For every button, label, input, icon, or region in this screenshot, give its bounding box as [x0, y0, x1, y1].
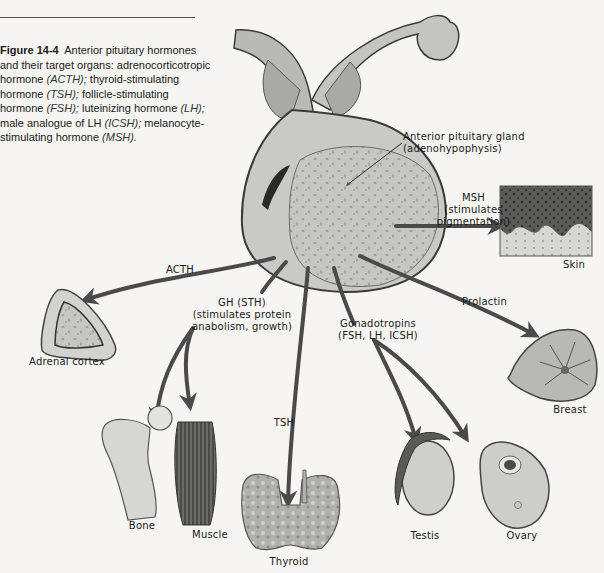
breast-label: Breast [540, 404, 600, 416]
breast-illustration [508, 330, 597, 402]
acth-label: ACTH [166, 264, 194, 276]
gh-label-line3: anabolism, growth) [182, 321, 302, 333]
adrenal-cortex-illustration [42, 290, 116, 361]
gonadotropins-label: Gonadotropins (FSH, LH, ICSH) [322, 318, 434, 342]
gonadotropins-label-line2: (FSH, LH, ICSH) [322, 330, 434, 342]
prolactin-label: Prolactin [462, 296, 507, 308]
muscle-illustration [175, 422, 216, 525]
testis-label: Testis [400, 530, 450, 542]
thyroid-label: Thyroid [259, 556, 319, 568]
gonadotropins-label-line1: Gonadotropins [322, 318, 434, 330]
testis-illustration [395, 433, 454, 516]
gland-label-line2: (adenohypophysis) [403, 143, 525, 155]
bone-illustration [102, 406, 172, 520]
bone-label: Bone [117, 520, 167, 532]
gh-label-line1: GH (STH) [182, 297, 302, 309]
gland-label: Anterior pituitary gland (adenohypophysi… [403, 131, 525, 155]
gland-label-line1: Anterior pituitary gland [403, 131, 525, 143]
skin-label: Skin [544, 259, 604, 271]
gh-label: GH (STH) (stimulates protein anabolism, … [182, 297, 302, 333]
msh-label: MSH (stimulates pigmentation) [426, 192, 521, 228]
pituitary-diagram [0, 0, 604, 573]
ovary-illustration [480, 442, 549, 528]
gh-muscle-arrow [186, 328, 193, 406]
gh-label-line2: (stimulates protein [182, 309, 302, 321]
msh-label-line3: pigmentation) [426, 216, 521, 228]
tsh-label: TSH [264, 417, 304, 429]
msh-label-line1: MSH [426, 192, 521, 204]
ovary-label: Ovary [497, 530, 547, 542]
adrenal-cortex-label: Adrenal cortex [12, 356, 122, 368]
gonadotropin-ovary-arrow [374, 340, 466, 438]
muscle-label: Muscle [180, 529, 240, 541]
msh-label-line2: (stimulates [426, 204, 521, 216]
